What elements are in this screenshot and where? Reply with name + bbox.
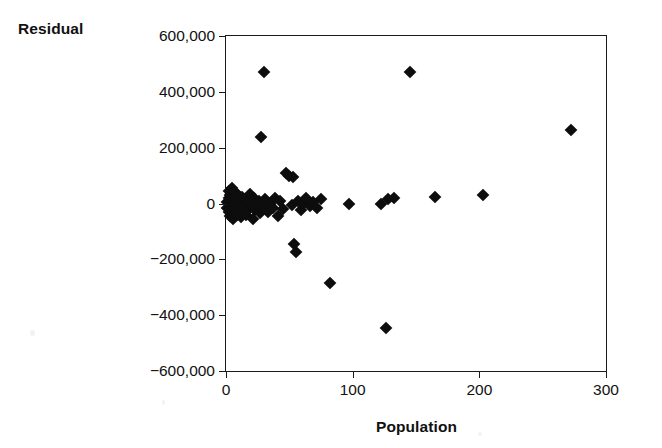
y-axis-tick-label: 600,000: [159, 27, 215, 45]
y-axis-tick-label: 400,000: [159, 83, 215, 101]
scan-speckle: [162, 400, 165, 405]
y-axis-tick-label: 200,000: [159, 139, 215, 157]
y-axis-tick: [219, 259, 226, 260]
y-axis-title: Residual: [18, 20, 83, 38]
x-axis-tick: [353, 371, 354, 378]
data-point: [429, 190, 442, 203]
scan-speckle: [478, 432, 482, 436]
y-axis-tick-label: −200,000: [150, 250, 215, 268]
plot-area: [226, 36, 606, 371]
data-point: [255, 130, 268, 143]
x-axis-tick-label: 0: [222, 381, 231, 399]
x-axis-tick-label: 200: [466, 381, 492, 399]
data-point: [323, 277, 336, 290]
data-point: [564, 123, 577, 136]
data-point: [379, 321, 392, 334]
y-axis-tick: [219, 315, 226, 316]
x-axis-tick-label: 300: [593, 381, 619, 399]
y-axis-tick: [219, 148, 226, 149]
y-axis-tick-label: 0: [206, 195, 215, 213]
y-axis-tick-label: −600,000: [150, 362, 215, 380]
data-point: [258, 66, 271, 79]
data-point: [342, 197, 355, 210]
y-axis-tick: [219, 371, 226, 372]
residual-vs-population-scatter-chart: Residual 600,000400,000200,0000−200,000−…: [0, 0, 662, 448]
y-axis-tick-label: −400,000: [150, 306, 215, 324]
x-axis-tick: [226, 371, 227, 378]
y-axis-tick: [219, 204, 226, 205]
x-axis-tick: [479, 371, 480, 378]
y-axis-tick: [219, 36, 226, 37]
y-axis-tick: [219, 92, 226, 93]
plot-frame: 600,000400,000200,0000−200,000−400,000−6…: [225, 35, 607, 372]
data-point: [403, 66, 416, 79]
x-axis-title: Population: [225, 418, 608, 436]
x-axis-tick: [606, 371, 607, 378]
x-axis-tick-label: 100: [340, 381, 366, 399]
data-point: [477, 189, 490, 202]
scan-speckle: [30, 330, 35, 336]
